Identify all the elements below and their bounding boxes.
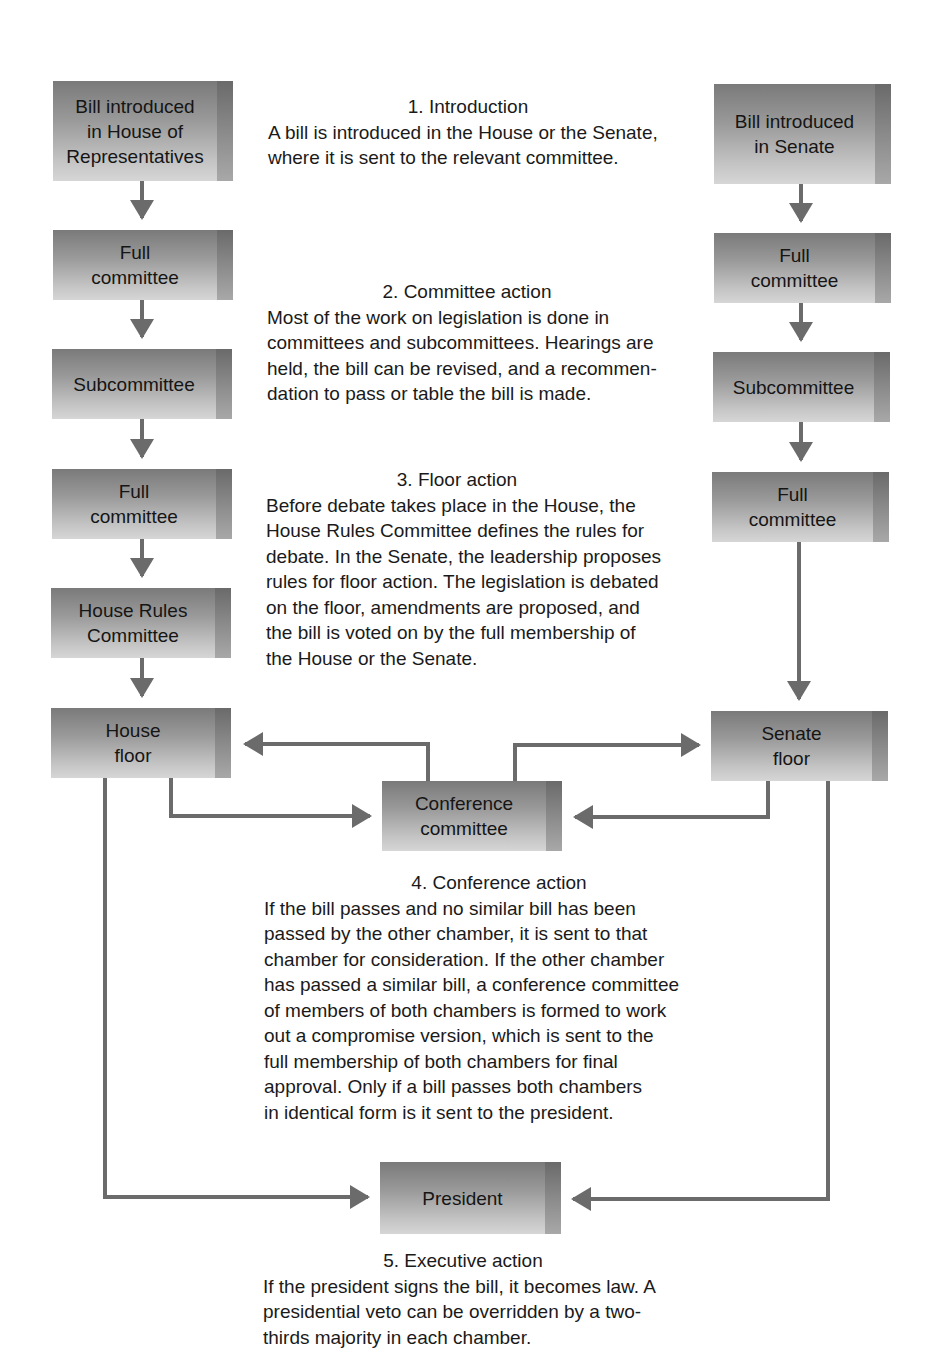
step-4-conference-action: 4. Conference action If the bill passes … — [264, 870, 734, 1125]
senate-floor-box: Senate floor — [711, 711, 888, 781]
box-label: Full committee — [91, 240, 179, 290]
step-2-committee-action: 2. Committee action Most of the work on … — [267, 279, 707, 407]
step-body: If the bill passes and no similar bill h… — [264, 896, 734, 1126]
arrow-house-to-conference — [171, 778, 370, 816]
box-label: Full committee — [749, 482, 837, 532]
step-title: 1. Introduction — [268, 94, 668, 120]
box-label: Bill introduced in House of Representati… — [66, 94, 203, 169]
step-3-floor-action: 3. Floor action Before debate takes plac… — [266, 467, 706, 671]
step-title: 2. Committee action — [267, 279, 667, 305]
senate-bill-introduced-box: Bill introduced in Senate — [714, 84, 891, 184]
box-label: President — [422, 1186, 502, 1211]
step-body: A bill is introduced in the House or the… — [268, 120, 708, 171]
step-title: 5. Executive action — [263, 1248, 663, 1274]
president-box: President — [380, 1162, 561, 1234]
arrow-conference-to-house — [245, 744, 428, 781]
senate-full-committee-box: Full committee — [714, 233, 891, 303]
box-label: Bill introduced in Senate — [735, 109, 854, 159]
house-subcommittee-box: Subcommittee — [52, 349, 232, 419]
box-label: Subcommittee — [73, 372, 194, 397]
conference-committee-box: Conference committee — [382, 781, 562, 851]
box-label: Senate floor — [761, 721, 821, 771]
box-label: Subcommittee — [733, 375, 854, 400]
arrow-conference-to-senate — [515, 745, 699, 781]
step-title: 4. Conference action — [264, 870, 734, 896]
house-bill-introduced-box: Bill introduced in House of Representati… — [53, 81, 233, 181]
house-floor-box: House floor — [51, 708, 231, 778]
step-5-executive-action: 5. Executive action If the president sig… — [263, 1248, 703, 1350]
box-label: House floor — [106, 718, 161, 768]
step-1-introduction: 1. Introduction A bill is introduced in … — [268, 94, 708, 171]
senate-full-committee-2-box: Full committee — [712, 472, 889, 542]
arrow-senate-to-conference — [575, 781, 768, 817]
senate-subcommittee-box: Subcommittee — [713, 352, 890, 422]
step-body: If the president signs the bill, it beco… — [263, 1274, 703, 1351]
box-label: Full committee — [90, 479, 178, 529]
house-full-committee-2-box: Full committee — [52, 469, 232, 539]
step-body: Before debate takes place in the House, … — [266, 493, 706, 672]
box-label: Full committee — [751, 243, 839, 293]
house-rules-committee-box: House Rules Committee — [51, 588, 231, 658]
step-title: 3. Floor action — [266, 467, 648, 493]
box-label: Conference committee — [415, 791, 513, 841]
step-body: Most of the work on legislation is done … — [267, 305, 707, 407]
box-label: House Rules Committee — [79, 598, 188, 648]
house-full-committee-box: Full committee — [53, 230, 233, 300]
